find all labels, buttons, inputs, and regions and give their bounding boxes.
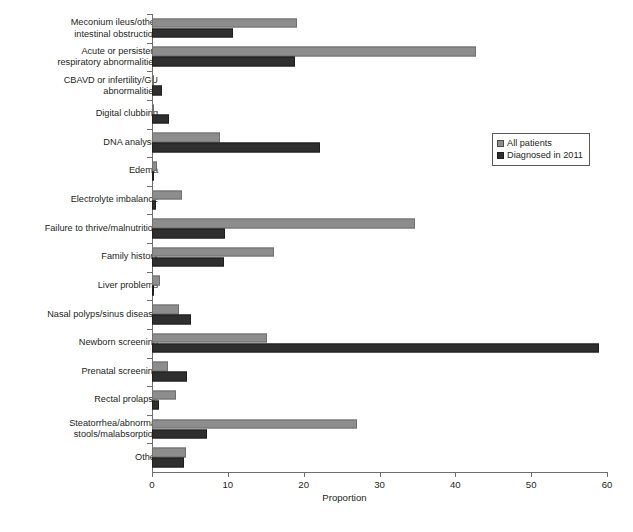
chart-row: CBAVD or infertility/GU abnormalities — [0, 71, 633, 100]
bar-all-patients — [152, 276, 160, 286]
category-label: CBAVD or infertility/GU abnormalities — [0, 74, 158, 96]
y-axis-tick — [147, 129, 152, 130]
category-label: Other — [0, 452, 158, 463]
chart-row: Meconium ileus/other intestinal obstruct… — [0, 14, 633, 43]
bar-diagnosed-2011 — [152, 372, 187, 382]
y-axis-tick — [147, 386, 152, 387]
y-axis-tick — [147, 300, 152, 301]
x-axis-tick-label: 50 — [526, 479, 537, 490]
legend-item-diagnosed-2011: Diagnosed in 2011 — [497, 149, 583, 161]
y-axis-tick — [147, 157, 152, 158]
bar-all-patients — [152, 190, 182, 200]
bar-group — [152, 218, 608, 239]
bar-all-patients — [152, 18, 297, 28]
y-axis-tick — [147, 243, 152, 244]
bar-group — [152, 190, 608, 211]
bar-group — [152, 447, 608, 468]
bar-all-patients — [152, 419, 357, 429]
x-axis-tick-label: 20 — [298, 479, 309, 490]
bar-chart: Meconium ileus/other intestinal obstruct… — [0, 0, 633, 532]
x-axis-title-text: Proportion — [322, 492, 366, 503]
x-axis-tick — [455, 472, 456, 477]
category-label: Meconium ileus/other intestinal obstruct… — [0, 17, 158, 39]
legend: All patients Diagnosed in 2011 — [492, 133, 590, 166]
bar-all-patients — [152, 104, 154, 114]
bar-group — [152, 361, 608, 382]
chart-row: Acute or persistent respiratory abnormal… — [0, 43, 633, 72]
category-label: Acute or persistent respiratory abnormal… — [0, 46, 158, 68]
category-label: Nasal polyps/sinus disease — [0, 309, 158, 320]
x-axis-tick — [531, 472, 532, 477]
bar-all-patients — [152, 390, 176, 400]
y-axis-tick — [147, 43, 152, 44]
bar-group — [152, 104, 608, 125]
category-label: Failure to thrive/malnutrition — [0, 223, 158, 234]
bar-diagnosed-2011 — [152, 200, 156, 210]
category-label: Newborn screening — [0, 338, 158, 349]
chart-row: Family history — [0, 243, 633, 272]
bar-all-patients — [152, 448, 186, 458]
y-axis-tick — [147, 329, 152, 330]
category-rows: Meconium ileus/other intestinal obstruct… — [0, 14, 633, 472]
x-axis-tick-label: 60 — [602, 479, 613, 490]
chart-row: Other — [0, 443, 633, 472]
bar-all-patients — [152, 47, 476, 57]
dark-gray-square-icon — [497, 152, 504, 159]
bar-all-patients — [152, 305, 179, 315]
bar-group — [152, 304, 608, 325]
category-label: Family history — [0, 252, 158, 263]
x-axis-tick-label: 40 — [450, 479, 461, 490]
chart-row: Failure to thrive/malnutrition — [0, 214, 633, 243]
y-axis-tick — [147, 14, 152, 15]
cropped-caption — [0, 523, 633, 532]
y-axis-tick — [147, 100, 152, 101]
legend-label-diagnosed-2011: Diagnosed in 2011 — [507, 149, 583, 161]
bar-all-patients — [152, 219, 415, 229]
y-axis-tick — [147, 71, 152, 72]
y-axis-tick — [147, 214, 152, 215]
bar-all-patients — [152, 333, 267, 343]
bar-all-patients — [152, 133, 220, 143]
category-label: Rectal prolapse — [0, 395, 158, 406]
light-gray-square-icon — [497, 140, 504, 147]
category-label: Edema — [0, 166, 158, 177]
bar-all-patients — [152, 362, 168, 372]
bar-diagnosed-2011 — [152, 28, 233, 38]
category-label: Steatorrhea/abnormal stools/malabsorptio… — [0, 418, 158, 440]
category-label: Electrolyte imbalance — [0, 194, 158, 205]
bar-all-patients — [152, 161, 157, 171]
bar-group — [152, 75, 608, 96]
x-axis-tick — [228, 472, 229, 477]
y-axis-tick — [147, 443, 152, 444]
chart-row: Liver problems — [0, 272, 633, 301]
chart-row: Rectal prolapse — [0, 386, 633, 415]
x-axis-tick — [152, 472, 153, 477]
bar-group — [152, 390, 608, 411]
bar-group — [152, 18, 608, 39]
x-axis-tick — [380, 472, 381, 477]
chart-row: Newborn screening — [0, 329, 633, 358]
bar-diagnosed-2011 — [152, 400, 159, 410]
bar-diagnosed-2011 — [152, 429, 207, 439]
bar-all-patients — [152, 76, 154, 86]
y-axis-tick — [147, 415, 152, 416]
category-label: Liver problems — [0, 280, 158, 291]
chart-row: Prenatal screening — [0, 358, 633, 387]
x-axis-tick-label: 0 — [149, 479, 154, 490]
bar-diagnosed-2011 — [152, 286, 154, 296]
x-axis-tick — [607, 472, 608, 477]
bar-diagnosed-2011 — [152, 229, 225, 239]
x-axis-tick-label: 10 — [222, 479, 233, 490]
bar-diagnosed-2011 — [152, 458, 184, 468]
bar-group — [152, 333, 608, 354]
category-label: Digital clubbing — [0, 109, 158, 120]
bar-group — [152, 46, 608, 67]
bar-diagnosed-2011 — [152, 114, 169, 124]
bar-all-patients — [152, 247, 274, 257]
bar-diagnosed-2011 — [152, 143, 320, 153]
chart-row: Steatorrhea/abnormal stools/malabsorptio… — [0, 415, 633, 444]
bar-diagnosed-2011 — [152, 343, 599, 353]
chart-row: Nasal polyps/sinus disease — [0, 300, 633, 329]
bar-diagnosed-2011 — [152, 57, 295, 67]
y-axis-tick — [147, 358, 152, 359]
